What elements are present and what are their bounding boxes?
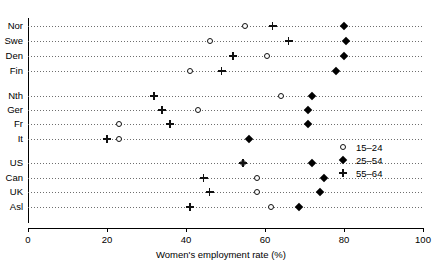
data-point-it-25-54 <box>246 136 252 142</box>
data-point-it-55-64 <box>103 135 111 143</box>
marker-plus <box>285 37 293 45</box>
data-point-den-15-24 <box>264 53 270 59</box>
marker-plus <box>218 67 226 75</box>
employment-rate-chart: 020406080100 Women's employment rate (%)… <box>0 0 442 273</box>
marker-plus <box>200 174 208 182</box>
data-point-us-55-64 <box>239 159 247 167</box>
data-point-swe-55-64 <box>285 37 293 45</box>
data-point-nor-25-54 <box>341 23 347 29</box>
data-point-us-25-54 <box>309 160 315 166</box>
y-axis-label-asl: Asl <box>0 202 23 212</box>
x-axis-title: Women's employment rate (%) <box>0 249 442 260</box>
marker-filled-diamond <box>340 22 348 30</box>
data-point-swe-25-54 <box>343 38 349 44</box>
x-tick-label-80: 80 <box>339 234 350 245</box>
marker-plus <box>239 159 247 167</box>
marker-plus <box>229 52 237 60</box>
data-point-den-25-54 <box>341 53 347 59</box>
marker-open-circle <box>268 204 274 210</box>
gridline-dotted <box>28 56 423 57</box>
gridline-dotted <box>28 139 423 140</box>
marker-open-circle <box>340 144 346 150</box>
marker-filled-diamond <box>245 135 253 143</box>
marker-filled-diamond <box>294 203 302 211</box>
marker-plus <box>186 203 194 211</box>
y-axis-label-fr: Fr <box>0 119 23 129</box>
grid-row <box>28 26 423 27</box>
legend: 15–2425–5455–64 <box>338 141 382 180</box>
gridline-dotted <box>28 96 423 97</box>
x-tick <box>186 228 187 232</box>
y-axis-label-swe: Swe <box>0 36 23 46</box>
data-point-uk-15-24 <box>254 189 260 195</box>
y-axis-label-uk: UK <box>0 187 23 197</box>
data-point-can-55-64 <box>200 174 208 182</box>
marker-filled-diamond <box>320 174 328 182</box>
grid-row <box>28 96 423 97</box>
x-tick-label-60: 60 <box>260 234 271 245</box>
legend-label: 55–64 <box>354 168 382 179</box>
y-axis-label-den: Den <box>0 51 23 61</box>
data-point-uk-25-54 <box>317 189 323 195</box>
x-tick <box>107 228 108 232</box>
y-axis-label-us: US <box>0 158 23 168</box>
marker-plus <box>150 92 158 100</box>
marker-open-circle <box>116 121 122 127</box>
marker-filled-diamond <box>316 188 324 196</box>
grid-row <box>28 41 423 42</box>
legend-item-55-64: 55–64 <box>338 167 382 180</box>
data-point-asl-15-24 <box>268 204 274 210</box>
data-point-uk-55-64 <box>206 188 214 196</box>
marker-open-circle <box>254 189 260 195</box>
gridline-dotted <box>28 124 423 125</box>
grid-row <box>28 56 423 57</box>
data-point-ger-15-24 <box>195 107 201 113</box>
data-point-ger-25-54 <box>305 107 311 113</box>
y-axis-label-ger: Ger <box>0 105 23 115</box>
legend-marker-open-circle <box>338 141 354 154</box>
data-point-fr-25-54 <box>305 121 311 127</box>
marker-filled-diamond <box>339 156 347 164</box>
y-axis-label-nor: Nor <box>0 21 23 31</box>
grid-row <box>28 139 423 140</box>
marker-plus <box>103 135 111 143</box>
marker-filled-diamond <box>304 106 312 114</box>
data-point-it-15-24 <box>116 136 122 142</box>
marker-open-circle <box>187 68 193 74</box>
legend-marker-filled-diamond <box>338 154 354 167</box>
gridline-dotted <box>28 192 423 193</box>
legend-item-15-24: 15–24 <box>338 141 382 154</box>
grid-row <box>28 124 423 125</box>
x-axis-line <box>28 228 423 229</box>
marker-open-circle <box>254 175 260 181</box>
data-point-asl-25-54 <box>296 204 302 210</box>
data-point-nth-15-24 <box>278 93 284 99</box>
grid-row <box>28 110 423 111</box>
y-axis-label-can: Can <box>0 173 23 183</box>
marker-filled-diamond <box>340 52 348 60</box>
data-point-fr-55-64 <box>166 120 174 128</box>
data-point-ger-55-64 <box>158 106 166 114</box>
grid-row <box>28 192 423 193</box>
x-tick-label-100: 100 <box>415 234 431 245</box>
legend-label: 15–24 <box>354 142 382 153</box>
marker-filled-diamond <box>308 159 316 167</box>
marker-plus <box>158 106 166 114</box>
data-point-nth-25-54 <box>309 93 315 99</box>
data-point-fin-15-24 <box>187 68 193 74</box>
data-point-nth-55-64 <box>150 92 158 100</box>
legend-item-25-54: 25–54 <box>338 154 382 167</box>
marker-plus <box>269 22 277 30</box>
data-point-fr-15-24 <box>116 121 122 127</box>
marker-filled-diamond <box>342 37 350 45</box>
marker-plus <box>206 188 214 196</box>
marker-plus <box>339 169 347 177</box>
x-tick-label-20: 20 <box>102 234 113 245</box>
grid-row <box>28 207 423 208</box>
marker-open-circle <box>278 93 284 99</box>
data-point-nor-15-24 <box>242 23 248 29</box>
data-point-nor-55-64 <box>269 22 277 30</box>
x-tick <box>265 228 266 232</box>
data-point-can-25-54 <box>321 175 327 181</box>
marker-open-circle <box>195 107 201 113</box>
